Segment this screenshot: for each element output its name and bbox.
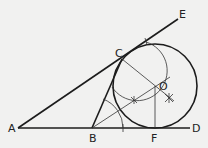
label-A: A xyxy=(8,122,16,135)
label-O: O xyxy=(159,80,168,93)
line-AE xyxy=(18,19,178,128)
label-E: E xyxy=(179,8,186,21)
diagram-canvas: A B C D E F O xyxy=(0,0,208,148)
label-C: C xyxy=(115,47,123,60)
geometry-diagram: A B C D E F O xyxy=(0,0,208,148)
label-F: F xyxy=(151,132,157,145)
label-B: B xyxy=(89,132,97,145)
label-D: D xyxy=(192,122,200,135)
arc-at-B xyxy=(103,99,123,128)
